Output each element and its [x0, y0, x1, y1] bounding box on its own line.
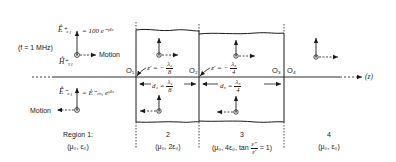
thickness-fraction: λ₂8: [166, 79, 173, 93]
region-3-params-suffix: = 1): [260, 144, 272, 151]
frequency-label: (f = 1 MHz): [18, 44, 53, 51]
reflected-e-field-label: Ê⁻ₓ₁: [59, 88, 72, 96]
region-3-forward-icon: [234, 40, 255, 58]
thickness-fraction: λ₃4: [234, 79, 241, 93]
z-axis-label: (z): [365, 73, 373, 81]
region-1-name: Region 1:: [63, 131, 93, 138]
slab-region-2: [136, 29, 199, 122]
fraction-denominator: 8: [168, 69, 171, 76]
z-prime-fraction: λ₂8: [166, 61, 173, 75]
fraction-denominator: ε′: [252, 149, 256, 156]
region-4-params: (μ₀, ε₀): [318, 143, 340, 150]
reflected-e-symbol: Ê⁻ₓ₁: [59, 87, 72, 96]
loss-tangent-fraction: ε″ε′: [251, 141, 258, 155]
slab-region-3: [199, 33, 284, 123]
origin-o3: O₃: [272, 67, 281, 75]
incident-e-field-label: Ê⁺ₓ₁: [58, 26, 71, 34]
incident-e-expression: = 100 e⁻ᵞ¹ᶻ: [82, 27, 113, 35]
incident-e-expr: = 100 e⁻ᵞ¹ᶻ: [82, 27, 113, 35]
thickness-label: d₃ =: [220, 82, 232, 90]
reflected-motion-label: Motion: [30, 107, 51, 114]
fraction-denominator: 4: [232, 69, 235, 76]
z-prime-label: z' = −: [211, 64, 228, 72]
region-2-params: (μ₀, 2ε₀): [155, 143, 180, 150]
incident-h-field-label: Ĥ⁺ᵧ₁: [59, 58, 73, 66]
thickness-label: d₂ =: [152, 82, 164, 90]
origin-o4: O₄: [287, 67, 296, 75]
reflected-e-expression: = Ê⁻ₘ₁ eᵞ¹ᶻ: [82, 89, 113, 97]
region-3-params-prefix: (μ₀, 4ε₀, tan: [212, 144, 249, 151]
region-2-forward-icon: [157, 38, 178, 57]
region-3-params: (μ₀, 4ε₀, tan ε″ε′ = 1): [212, 141, 272, 155]
region-1-params: (μ₀, ε₀): [67, 143, 89, 150]
incident-motion-label: Motion: [99, 51, 120, 58]
region-2-name: 2: [166, 131, 170, 138]
z-prime-label: z' = −: [147, 64, 164, 72]
z-prime-ref-region-3: z' = − λ₃4: [211, 61, 237, 75]
region-2-backward-icon: [140, 95, 161, 113]
origin-o2: O₂: [189, 67, 198, 75]
incident-e-symbol: Ê⁺ₓ₁: [58, 25, 71, 34]
fraction-denominator: 8: [168, 87, 171, 94]
z-prime-ref-region-2: z' = − λ₂8: [147, 61, 173, 75]
region-4-name: 4: [327, 131, 331, 138]
region-3-backward-icon: [217, 96, 238, 114]
origin-o1: O₁: [126, 67, 134, 75]
region-4-transmitted-icon: [314, 38, 338, 59]
z-prime-fraction: λ₃4: [230, 61, 237, 75]
incident-h-symbol: Ĥ⁺ᵧ₁: [59, 57, 73, 66]
thickness-d2: d₂ = λ₂8: [152, 79, 173, 93]
region-3-name: 3: [240, 131, 244, 138]
fraction-denominator: 4: [236, 87, 239, 94]
reflected-e-expr: = Ê⁻ₘ₁ eᵞ¹ᶻ: [82, 89, 113, 97]
thickness-d3: d₃ = λ₃4: [220, 79, 241, 93]
